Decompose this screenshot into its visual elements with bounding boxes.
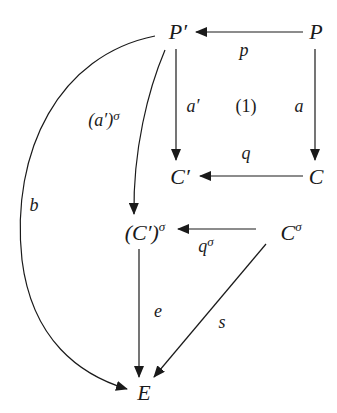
arrow-b — [20, 36, 155, 389]
label-a-prime-sigma: (a′)σ — [88, 111, 119, 129]
label-q-sigma-sup: σ — [207, 234, 213, 249]
node-p: P — [309, 21, 322, 43]
node-c-prime-sigma: (C′)σ — [125, 222, 166, 244]
node-c-sigma-base: C — [280, 220, 295, 245]
node-p-prime: P′ — [169, 21, 187, 43]
label-s: s — [218, 313, 225, 331]
arrow-s — [154, 244, 266, 377]
node-c-prime-sigma-base: (C′) — [125, 220, 159, 245]
label-q-sigma-base: q — [198, 236, 207, 256]
diagram-canvas — [0, 0, 337, 413]
node-c-prime: C′ — [170, 166, 190, 188]
region-label-1: (1) — [236, 97, 257, 115]
arrow-a-prime-sigma — [134, 50, 165, 214]
node-c-prime-sigma-sup: σ — [159, 219, 165, 234]
label-a-prime-sigma-sup: σ — [113, 108, 119, 123]
label-a: a — [295, 97, 304, 115]
node-e: E — [137, 382, 150, 404]
label-p: p — [240, 41, 249, 59]
label-e: e — [154, 302, 162, 320]
node-c-sigma-sup: σ — [295, 219, 301, 234]
node-c: C — [309, 166, 324, 188]
node-c-sigma: Cσ — [280, 222, 301, 244]
label-a-prime-sigma-base: (a′) — [88, 110, 113, 130]
label-q-sigma: qσ — [198, 237, 213, 255]
label-q: q — [242, 144, 251, 162]
label-a-prime: a′ — [187, 97, 200, 115]
label-b: b — [30, 196, 39, 214]
